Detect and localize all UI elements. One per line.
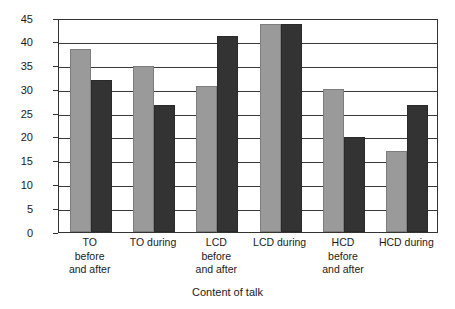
gridline <box>59 186 437 187</box>
x-axis-title: Content of talk <box>0 286 455 299</box>
y-axis-tick-label: 10 <box>11 180 33 191</box>
bar <box>281 24 302 232</box>
gridline <box>59 115 437 116</box>
y-axis-tick-label: 25 <box>11 109 33 120</box>
plot-area <box>58 19 438 233</box>
y-axis-tick-label: 15 <box>11 156 33 167</box>
gridline <box>59 91 437 92</box>
bar <box>344 137 365 232</box>
x-axis-tick-label: HCD during <box>369 236 444 250</box>
y-axis-tick-label: 20 <box>11 132 33 143</box>
y-axis-tick-label: 45 <box>11 14 33 25</box>
gridline <box>59 162 437 163</box>
y-axis-tick-label: 40 <box>11 37 33 48</box>
gridline <box>59 67 437 68</box>
y-axis-tick-label: 0 <box>11 228 33 239</box>
bar <box>154 105 175 232</box>
y-axis-tick-label: 35 <box>11 61 33 72</box>
bar <box>70 49 91 232</box>
gridline <box>59 43 437 44</box>
bar <box>260 24 281 232</box>
gridline <box>59 138 437 139</box>
bar <box>217 36 238 232</box>
bar <box>386 151 407 232</box>
bar <box>323 89 344 232</box>
y-axis-tick-label: 30 <box>11 85 33 96</box>
bar-chart-figure: Percentage of total teacher talk 0510152… <box>0 0 455 309</box>
bar <box>133 66 154 232</box>
y-axis-tick-label: 5 <box>11 204 33 215</box>
bar <box>196 86 217 232</box>
bar <box>91 80 112 232</box>
gridline <box>59 210 437 211</box>
bar <box>407 105 428 232</box>
